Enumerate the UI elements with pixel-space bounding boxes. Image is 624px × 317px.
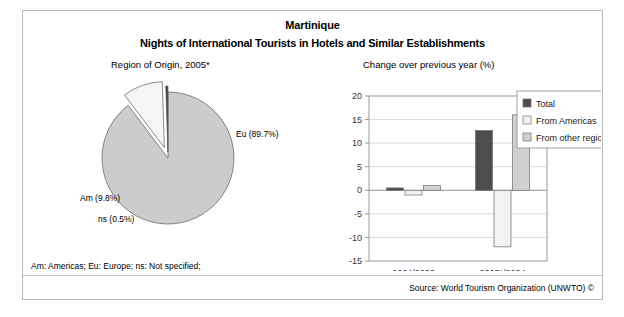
y-axis-tick-label: 15 — [352, 115, 362, 125]
legend-label-from-americas: From Americas — [536, 116, 597, 126]
bar-total — [476, 130, 493, 190]
bar-chart-x-axis: 2004/20032005*/2004 — [392, 268, 525, 271]
legend-swatch-from-americas — [523, 116, 531, 124]
pie-chart-svg — [43, 73, 323, 253]
legend-label-total: Total — [536, 99, 555, 109]
bar-from-americas — [494, 190, 511, 247]
y-axis-tick-label: 5 — [357, 162, 362, 172]
legend-swatch-total — [523, 99, 531, 107]
pie-slice-label-ns: ns (0.5%) — [98, 214, 134, 224]
pie-chart-caption: Region of Origin, 2005* — [111, 59, 210, 70]
y-axis-tick-label: 0 — [357, 185, 362, 195]
y-axis-tick-label: 10 — [352, 138, 362, 148]
x-axis-category-label: 2004/2003 — [392, 268, 435, 271]
bar-chart-legend: TotalFrom AmericasFrom other regions — [517, 91, 601, 148]
pie-chart: Eu (89.7%) Am (9.8%) ns (0.5%) — [43, 73, 323, 253]
source-note: Source: World Tourism Organization (UNWT… — [409, 283, 594, 293]
legend-swatch-from-other-regions — [523, 133, 531, 141]
y-axis-tick-label: -15 — [349, 256, 362, 266]
y-axis-tick-label: -10 — [349, 233, 362, 243]
bar-from-americas — [405, 190, 422, 195]
y-axis-tick-label: -5 — [354, 209, 362, 219]
page-title: Martinique — [23, 19, 602, 31]
pie-slice-label-eu: Eu (89.7%) — [236, 129, 279, 139]
bar-chart-svg: 20151050-5-10-15 2004/20032005*/2004 Tot… — [321, 71, 601, 271]
pie-slice-ns — [166, 86, 168, 152]
page-subtitle: Nights of International Tourists in Hote… — [23, 37, 602, 49]
x-axis-category-label: 2005*/2004 — [479, 268, 525, 271]
chart-card: Martinique Nights of International Touri… — [22, 10, 603, 300]
pie-slice-label-am: Am (9.8%) — [80, 193, 120, 203]
bar-chart-y-axis: 20151050-5-10-15 — [349, 91, 362, 266]
bar-from-other-regions — [424, 186, 441, 191]
abbreviation-note: Am: Americas; Eu: Europe; ns: Not specif… — [31, 261, 201, 271]
bar-total — [387, 188, 404, 190]
y-axis-tick-label: 20 — [352, 91, 362, 101]
bar-chart: 20151050-5-10-15 2004/20032005*/2004 Tot… — [321, 71, 601, 271]
footer-divider — [23, 275, 602, 276]
legend-label-from-other-regions: From other regions — [536, 133, 601, 143]
bar-chart-caption: Change over previous year (%) — [363, 59, 494, 70]
